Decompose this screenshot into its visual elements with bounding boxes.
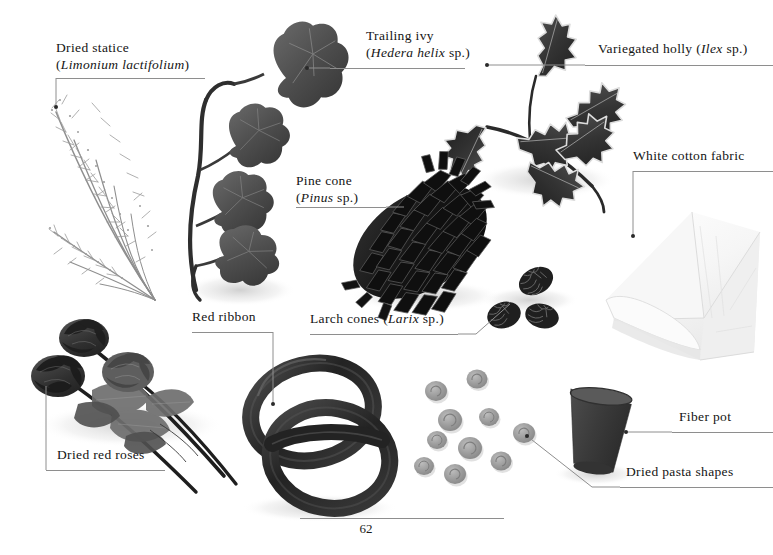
label-variegated-holly: Variegated holly (Ilex sp.): [598, 41, 748, 58]
label-pine-cone: Pine cone (Pinus sp.): [296, 173, 358, 206]
specimen-white-cotton-fabric: [606, 212, 760, 360]
label-pine-cone-line2: (Pinus sp.): [296, 190, 358, 207]
specimen-red-ribbon: [240, 350, 398, 522]
genus-pinus: Pinus: [301, 190, 334, 205]
leader-dot-red-ribbon: [271, 402, 275, 406]
rule-pine-cone: [296, 207, 386, 208]
leader-dot-white-cotton-fabric: [631, 234, 635, 238]
leader-dot-fiber-pot: [624, 430, 628, 434]
leader-dot-trailing-ivy: [305, 66, 309, 70]
rule-variegated-holly: [585, 65, 773, 66]
reference-page: Dried statice (Limonium lactifolium) Tra…: [0, 0, 773, 555]
leader-dot-dried-statice: [54, 105, 58, 109]
label-dried-statice-line1: Dried statice: [56, 40, 189, 57]
label-trailing-ivy-line1: Trailing ivy: [366, 28, 470, 45]
leader-larch-cones: [458, 304, 510, 334]
specimen-larch-cones: [482, 261, 578, 332]
rule-red-ribbon: [192, 332, 273, 333]
label-larch-cones: Larch cones (Larix sp.): [310, 311, 444, 328]
label-dried-pasta-shapes: Dried pasta shapes: [626, 464, 734, 481]
label-trailing-ivy-line2: (Hedera helix sp.): [366, 45, 470, 62]
specimen-dried-pasta-shapes: [414, 370, 537, 487]
rule-larch-cones: [310, 334, 458, 335]
rule-dried-statice: [56, 78, 205, 79]
label-fiber-pot: Fiber pot: [679, 409, 731, 426]
label-white-cotton-fabric: White cotton fabric: [633, 148, 745, 165]
label-trailing-ivy: Trailing ivy (Hedera helix sp.): [366, 28, 470, 61]
genus-larix: Larix: [388, 311, 419, 326]
label-pine-cone-line1: Pine cone: [296, 173, 358, 190]
specimen-dried-statice: [49, 95, 156, 300]
rule-fiber-pot: [672, 432, 773, 433]
genus-limonium: Limonium lactifolium: [61, 57, 185, 72]
specimen-dried-red-roses: [31, 319, 236, 492]
rule-dried-red-roses: [46, 470, 165, 471]
rule-trailing-ivy: [330, 68, 465, 69]
label-dried-red-roses: Dried red roses: [57, 447, 145, 464]
label-red-ribbon: Red ribbon: [192, 309, 256, 326]
genus-hedera: Hedera helix: [371, 45, 445, 60]
rule-dried-pasta-shapes: [620, 487, 773, 488]
page-number: 62: [336, 521, 396, 537]
leader-dried-pasta-shapes: [527, 436, 620, 487]
label-dried-statice-line2: (Limonium lactifolium): [56, 57, 189, 74]
specimen-trailing-ivy: [185, 16, 355, 306]
leader-dot-variegated-holly: [485, 63, 489, 67]
footer-rule: [300, 518, 504, 519]
genus-ilex: Ilex: [701, 41, 723, 56]
leader-dot-dried-pasta-shapes: [525, 434, 529, 438]
rule-white-cotton-fabric: [633, 171, 773, 172]
label-dried-statice: Dried statice (Limonium lactifolium): [56, 40, 189, 73]
